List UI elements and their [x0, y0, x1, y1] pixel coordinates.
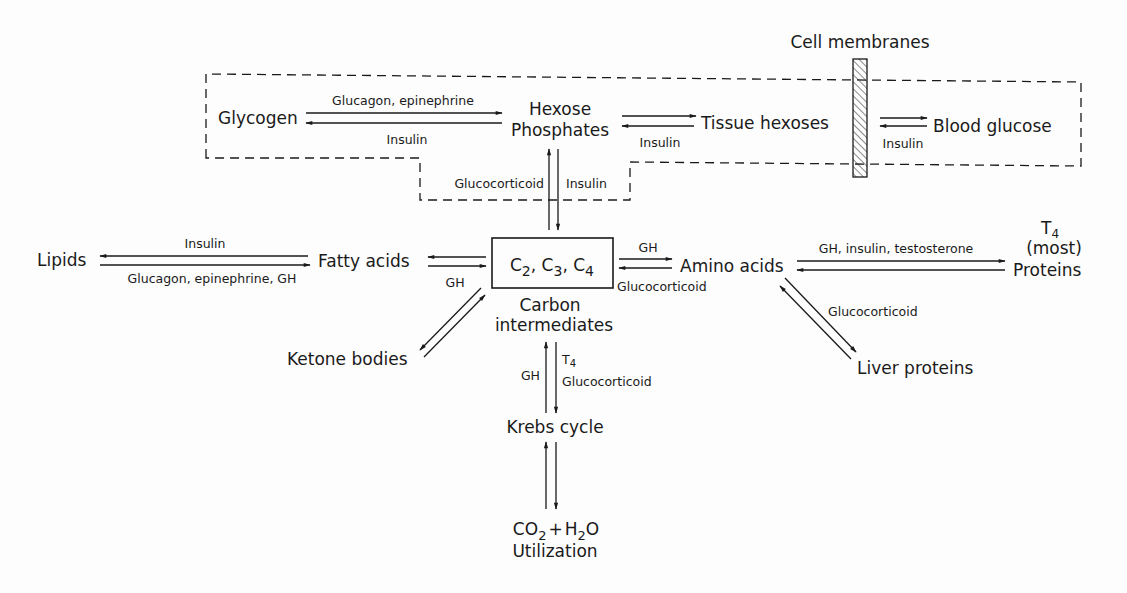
edge-tissue-blood-insulin: Insulin — [883, 136, 924, 151]
metabolic-diagram: Cell membranes Glycogen Glucagon, epinep… — [0, 0, 1127, 593]
edge-amino-glucocorticoid: Glucocorticoid — [617, 279, 707, 294]
node-lipids: Lipids — [37, 250, 86, 270]
node-krebs-cycle: Krebs cycle — [506, 417, 603, 437]
edge-krebs-t4: T4 — [561, 352, 576, 369]
edge-glucagon-epinephrine: Glucagon, epinephrine — [332, 93, 474, 108]
edge-proteins-gh-insulin-testosterone: GH, insulin, testosterone — [819, 241, 974, 256]
node-carbon-c2-c3-c4: C2, C3, C4 — [510, 255, 594, 279]
edge-lipids-insulin: Insulin — [185, 236, 226, 251]
edge-hexose-glucocorticoid: Glucocorticoid — [454, 176, 544, 191]
node-proteins: Proteins — [1013, 260, 1082, 280]
node-fatty-acids: Fatty acids — [318, 251, 410, 271]
node-proteins-most: (most) — [1026, 238, 1082, 258]
node-ketone-bodies: Ketone bodies — [287, 349, 408, 369]
node-amino-acids: Amino acids — [680, 256, 784, 276]
node-blood-glucose: Blood glucose — [933, 116, 1052, 136]
node-utilization: Utilization — [512, 541, 597, 561]
edge-amino-gh: GH — [638, 240, 657, 255]
node-carbon-label: Carbon — [519, 295, 580, 315]
edge-hexose-tissue-insulin: Insulin — [640, 135, 681, 150]
edge-krebs-glucocorticoid: Glucocorticoid — [562, 374, 652, 389]
node-hexose: Hexose — [529, 99, 591, 119]
node-intermediates-label: intermediates — [495, 315, 613, 335]
node-glycogen: Glycogen — [218, 108, 298, 128]
node-phosphates: Phosphates — [511, 120, 609, 140]
cell-membrane-bar — [853, 59, 867, 177]
cell-membranes-label: Cell membranes — [790, 32, 929, 52]
node-liver-proteins: Liver proteins — [857, 358, 974, 378]
edge-liver-glucocorticoid: Glucocorticoid — [828, 304, 918, 319]
edge-krebs-gh: GH — [521, 368, 540, 383]
node-co2-h2o: CO2+H2O — [513, 519, 599, 543]
node-tissue-hexoses: Tissue hexoses — [700, 113, 829, 133]
edge-glycogen-insulin: Insulin — [387, 132, 428, 147]
edge-hexose-insulin: Insulin — [566, 176, 607, 191]
edge-fatty-gh: GH — [445, 275, 464, 290]
edge-lipids-glucagon-gh: Glucagon, epinephrine, GH — [128, 271, 297, 286]
